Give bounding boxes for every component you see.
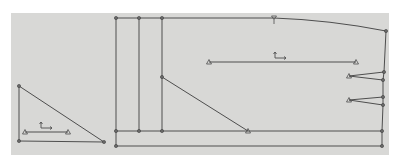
point-marker[interactable] [137, 129, 140, 132]
point-marker[interactable] [381, 95, 384, 98]
point-marker[interactable] [17, 139, 20, 142]
point-marker[interactable] [160, 75, 163, 78]
point-marker[interactable] [102, 140, 105, 143]
point-marker[interactable] [137, 16, 140, 19]
pattern-canvas[interactable] [0, 0, 397, 165]
point-marker[interactable] [384, 29, 387, 32]
point-marker[interactable] [17, 84, 20, 87]
point-marker[interactable] [114, 129, 117, 132]
point-marker[interactable] [160, 16, 163, 19]
point-marker[interactable] [381, 103, 384, 106]
point-marker[interactable] [380, 129, 383, 132]
point-marker[interactable] [160, 129, 163, 132]
point-marker[interactable] [380, 144, 383, 147]
point-marker[interactable] [114, 16, 117, 19]
point-marker[interactable] [114, 144, 117, 147]
drafting-area[interactable] [0, 0, 397, 165]
point-marker[interactable] [382, 70, 385, 73]
point-marker[interactable] [381, 78, 384, 81]
